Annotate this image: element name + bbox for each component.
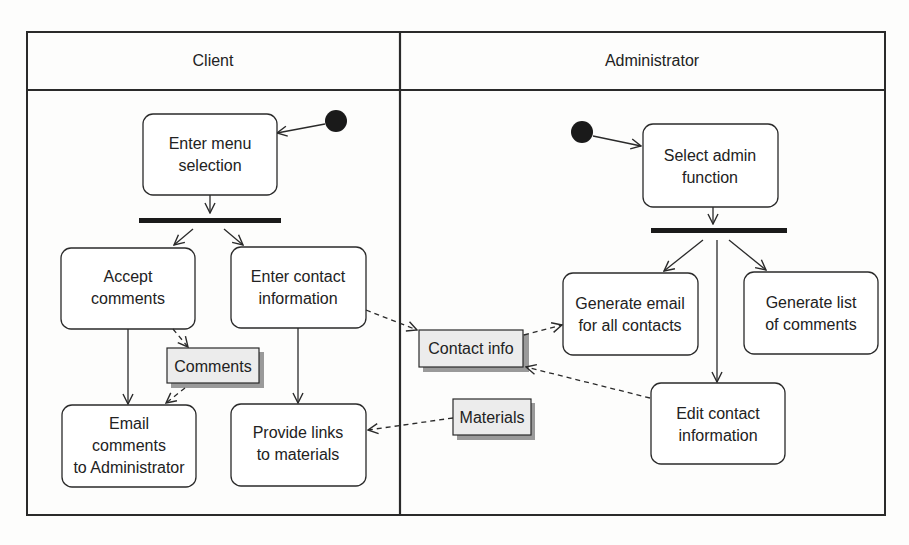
activity-provide-links[interactable]: Provide links to materials — [231, 404, 366, 486]
flow-start-to-select-admin — [593, 136, 641, 146]
activity-label: comments — [92, 437, 166, 454]
objectflow-contact-info-to-generate-email — [524, 325, 562, 335]
activity-enter-contact-information[interactable]: Enter contact information — [231, 247, 366, 328]
objectflow-materials-to-provide-links — [368, 418, 453, 430]
flow-start-to-enter-menu — [277, 124, 325, 133]
lane-title-administrator: Administrator — [605, 52, 700, 69]
activity-label: Generate list — [766, 294, 857, 311]
activity-generate-email[interactable]: Generate email for all contacts — [563, 273, 698, 355]
activity-label: information — [258, 290, 337, 307]
object-label: Materials — [460, 409, 525, 426]
activity-label: comments — [91, 290, 165, 307]
activity-accept-comments[interactable]: Accept comments — [61, 248, 195, 329]
client-fork-bar — [139, 218, 281, 223]
activity-label: Provide links — [253, 424, 344, 441]
activity-label: Select admin — [664, 147, 757, 164]
activity-label: Enter contact — [251, 268, 346, 285]
activity-label: Generate email — [575, 295, 684, 312]
objectflow-edit-contact-to-contact-info — [526, 367, 650, 398]
activity-label: to materials — [257, 446, 340, 463]
objectflow-enter-contact-to-contact-info — [366, 310, 417, 330]
activity-email-comments[interactable]: Email comments to Administrator — [62, 405, 196, 487]
activity-label: function — [682, 169, 738, 186]
activity-generate-list[interactable]: Generate list of comments — [744, 272, 878, 354]
activity-diagram: Client Administrator Enter menu selectio… — [0, 0, 909, 545]
activity-label: to Administrator — [73, 459, 185, 476]
flow-fork-to-generate-list — [729, 240, 766, 270]
flow-fork-to-generate-email — [664, 240, 703, 271]
object-label: Comments — [174, 358, 251, 375]
activity-label: of comments — [765, 316, 857, 333]
activity-label: Accept — [104, 268, 153, 285]
activity-enter-menu-selection[interactable]: Enter menu selection — [143, 114, 277, 195]
client-initial-node — [325, 110, 347, 132]
admin-initial-node — [571, 121, 593, 143]
flow-fork-to-enter-contact — [224, 229, 243, 245]
object-label: Contact info — [428, 340, 513, 357]
activity-label: Enter menu — [169, 135, 252, 152]
admin-fork-bar — [651, 228, 787, 233]
activity-label: Edit contact — [676, 405, 760, 422]
flow-fork-to-accept-comments — [174, 229, 193, 245]
activity-select-admin-function[interactable]: Select admin function — [643, 124, 778, 207]
objectflow-comments-to-email — [166, 388, 185, 403]
activity-edit-contact-information[interactable]: Edit contact information — [651, 383, 785, 464]
activity-label: selection — [178, 157, 241, 174]
activity-label: Email — [109, 415, 149, 432]
objectflow-accept-to-comments — [173, 329, 188, 347]
object-comments[interactable]: Comments — [167, 348, 264, 388]
lane-title-client: Client — [193, 52, 234, 69]
object-contact-info[interactable]: Contact info — [419, 330, 529, 372]
activity-label: for all contacts — [578, 317, 681, 334]
activity-label: information — [678, 427, 757, 444]
object-materials[interactable]: Materials — [453, 399, 535, 440]
